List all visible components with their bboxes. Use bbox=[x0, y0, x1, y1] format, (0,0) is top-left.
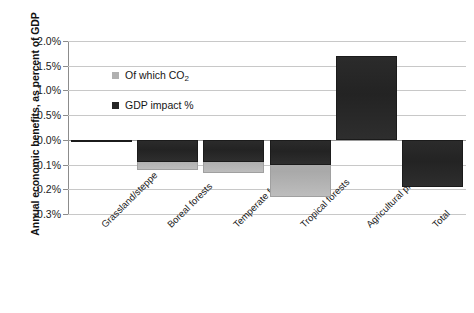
y-tick-label: -0.3% bbox=[34, 208, 61, 220]
y-tick-label: -0.1% bbox=[34, 159, 61, 171]
y-tick-label: -0.2% bbox=[34, 183, 61, 195]
x-axis-labels: Grassland/steppeBoreal forestsTemperate … bbox=[68, 216, 466, 311]
y-tick-label: 0.0% bbox=[37, 134, 61, 146]
legend-item-gdp: GDP impact % bbox=[112, 96, 262, 114]
legend-swatch-co2-icon bbox=[112, 72, 119, 79]
bar-gdp bbox=[203, 140, 264, 162]
legend-label-co2: Of which CO2 bbox=[125, 69, 189, 81]
bar-chart: Annual economic benefits, as percent of … bbox=[0, 0, 474, 313]
bar-slot bbox=[267, 41, 333, 214]
y-tick-mark bbox=[63, 214, 68, 215]
bar-gdp bbox=[137, 140, 198, 162]
legend: Of which CO2 GDP impact % bbox=[112, 66, 262, 126]
bar-gdp bbox=[336, 56, 397, 140]
y-tick-label: 0.5% bbox=[37, 109, 61, 121]
gridline bbox=[68, 214, 466, 215]
legend-swatch-gdp-icon bbox=[112, 102, 119, 109]
bar-gdp bbox=[270, 140, 331, 165]
legend-item-co2: Of which CO2 bbox=[112, 66, 262, 84]
y-tick-label: 1.5% bbox=[37, 60, 61, 72]
y-tick-label: 2.0% bbox=[37, 35, 61, 47]
y-tick-label: 1.0% bbox=[37, 84, 61, 96]
bar-gdp bbox=[71, 140, 132, 142]
bar-gdp bbox=[402, 140, 463, 187]
legend-label-gdp: GDP impact % bbox=[125, 99, 194, 111]
